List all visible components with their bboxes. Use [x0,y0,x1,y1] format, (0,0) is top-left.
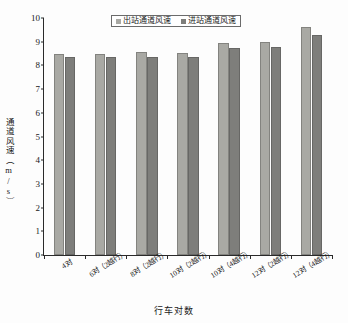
x-axis-tick-mark [44,255,45,259]
x-axis-tick-mark [85,255,86,259]
y-axis-tick-mark [41,183,44,184]
bar-in [65,57,76,255]
legend-swatch-icon [181,19,186,24]
bar-group [301,18,323,255]
bar-group [95,18,117,255]
y-axis-tick-mark [41,18,44,19]
y-axis-title: 通道风速（m/s） [4,117,13,206]
bar-out [54,54,65,255]
bar-out [136,52,147,255]
y-axis-tick-mark [41,65,44,66]
legend-item[interactable]: 进站通道风速 [181,17,236,25]
y-axis-tick-mark [41,207,44,208]
bar-out [301,27,312,255]
bar-in [312,35,323,255]
bar-group [260,18,282,255]
y-axis-tick-mark [41,136,44,137]
bar-group [177,18,199,255]
legend-swatch-icon [116,19,121,24]
x-axis-title: 行车对数 [0,304,348,317]
bar-out [218,43,229,255]
bar-in [229,48,240,255]
bar-chart: 通道风速（m/s） 1098765432104对6对（2越行）8对（2越行）10… [0,0,348,323]
chart-legend: 出站通道风速进站通道风速 [111,15,241,27]
y-axis-tick-mark [41,231,44,232]
y-axis-tick-mark [41,112,44,113]
x-axis-tick-label: 4对 [60,258,73,270]
bar-in [188,57,199,255]
bar-group [54,18,76,255]
bar-out [177,53,188,255]
bar-out [260,42,271,255]
bar-group [218,18,240,255]
plot-area: 1098765432104对6对（2越行）8对（2越行）10对（2越行）10对（… [43,18,332,256]
bar-in [271,47,282,255]
bar-in [106,57,117,255]
legend-label: 进站通道风速 [188,17,236,25]
legend-label: 出站通道风速 [123,17,171,25]
y-axis-tick-mark [41,41,44,42]
y-axis-tick-mark [41,89,44,90]
legend-item[interactable]: 出站通道风速 [116,17,171,25]
y-axis-tick-mark [41,160,44,161]
bar-group [136,18,158,255]
bar-out [95,54,106,255]
bar-in [147,57,158,255]
